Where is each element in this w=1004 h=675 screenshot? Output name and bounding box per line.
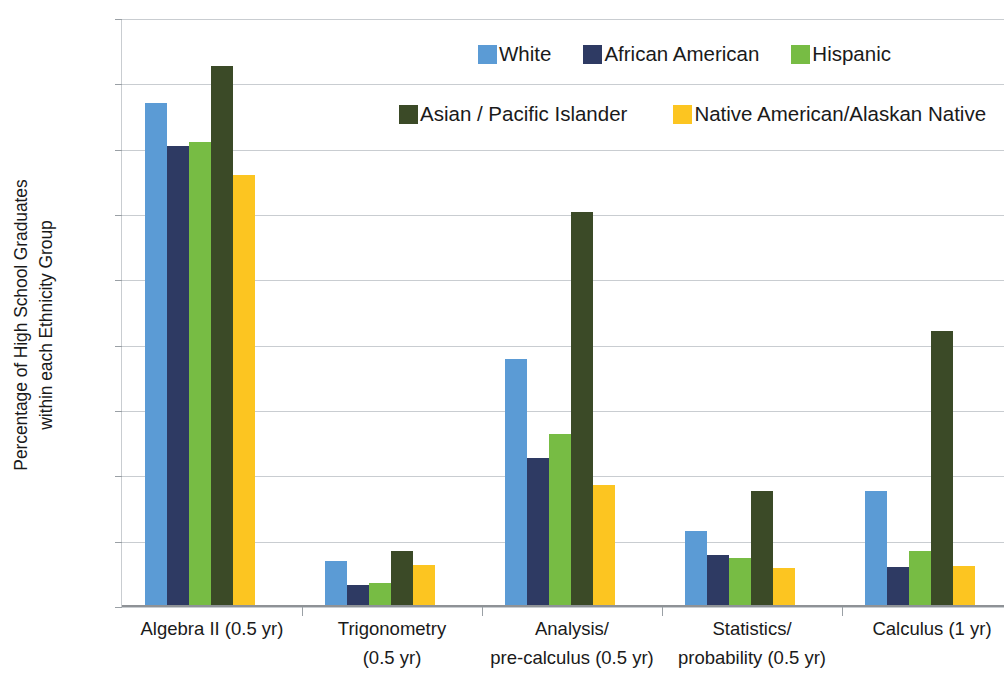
legend-row-1: WhiteAfrican AmericanHispanic — [478, 44, 891, 65]
bar — [369, 583, 391, 607]
bar — [729, 558, 751, 607]
legend-label: Asian / Pacific Islander — [420, 104, 627, 125]
bar — [773, 568, 795, 607]
bar — [593, 485, 615, 607]
legend-item: White — [478, 44, 551, 65]
bar — [505, 359, 527, 607]
legend-label: White — [499, 44, 551, 65]
legend-swatch-icon — [673, 105, 692, 124]
bar — [685, 531, 707, 607]
bar — [953, 566, 975, 607]
bar — [391, 551, 413, 607]
legend-item: African American — [583, 44, 759, 65]
bar — [527, 458, 549, 607]
legend-item: Native American/Alaskan Native — [673, 104, 986, 125]
y-axis-title: Percentage of High School Graduates with… — [9, 65, 59, 585]
bar — [887, 567, 909, 608]
x-axis-label: Statistics/ probability (0.5 yr) — [662, 614, 842, 672]
bar — [909, 551, 931, 607]
y-tick-mark — [115, 607, 122, 608]
bar — [145, 103, 167, 607]
bar — [211, 66, 233, 607]
x-axis-label: Algebra II (0.5 yr) — [122, 614, 302, 643]
bar — [751, 491, 773, 607]
y-tick-mark — [115, 84, 122, 85]
bar — [549, 434, 571, 607]
bar — [707, 555, 729, 607]
legend-row-2: Asian / Pacific IslanderNative American/… — [399, 104, 986, 125]
y-tick-mark — [115, 19, 122, 20]
bar — [571, 212, 593, 607]
bar — [865, 491, 887, 607]
x-axis-label: Trigonometry (0.5 yr) — [302, 614, 482, 672]
legend-label: African American — [604, 44, 759, 65]
bar — [347, 585, 369, 607]
y-tick-mark — [115, 476, 122, 477]
y-tick-mark — [115, 411, 122, 412]
x-axis-tick-labels: Algebra II (0.5 yr)Trigonometry (0.5 yr)… — [122, 614, 1004, 675]
legend-label: Hispanic — [812, 44, 891, 65]
y-tick-mark — [115, 280, 122, 281]
bar — [413, 565, 435, 607]
bar — [233, 175, 255, 608]
x-axis-label: Analysis/ pre-calculus (0.5 yr) — [482, 614, 662, 672]
bar — [931, 331, 953, 607]
y-tick-mark — [115, 346, 122, 347]
bar-chart: Percentage of High School Graduates with… — [0, 0, 1004, 675]
bar — [189, 142, 211, 607]
legend-label: Native American/Alaskan Native — [694, 104, 986, 125]
gridline — [122, 607, 1004, 608]
legend-swatch-icon — [478, 45, 497, 64]
y-tick-mark — [115, 150, 122, 151]
y-tick-mark — [115, 215, 122, 216]
legend-swatch-icon — [399, 105, 418, 124]
legend-item: Hispanic — [791, 44, 891, 65]
bar-group — [122, 19, 302, 607]
legend-swatch-icon — [583, 45, 602, 64]
y-tick-mark — [115, 542, 122, 543]
bar — [325, 561, 347, 607]
legend-item: Asian / Pacific Islander — [399, 104, 627, 125]
bar — [167, 146, 189, 607]
x-axis-line — [122, 605, 1004, 607]
x-axis-label: Calculus (1 yr) — [842, 614, 1004, 643]
legend-swatch-icon — [791, 45, 810, 64]
